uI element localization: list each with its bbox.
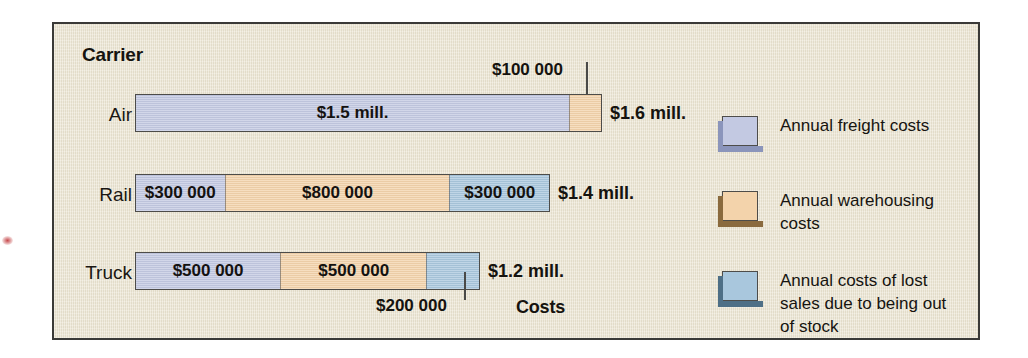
stacked-bar-truck: $500 000 $500 000 bbox=[135, 252, 480, 290]
bar-segment-truck-warehousing: $500 000 bbox=[280, 253, 426, 289]
bar-total-label-air: $1.6 mill. bbox=[610, 94, 686, 132]
legend-swatch-lostsales-icon bbox=[722, 271, 758, 301]
bar-row-air: Air $1.5 mill. $1.6 mill. bbox=[54, 94, 714, 136]
legend-item-warehousing: Annual warehousing costs bbox=[722, 189, 960, 235]
bar-row-label-truck: Truck bbox=[54, 252, 132, 294]
bar-segment-rail-lostsales: $300 000 bbox=[449, 175, 549, 211]
legend-item-lostsales: Annual costs of lost sales due to being … bbox=[722, 269, 960, 338]
bar-segment-air-warehousing bbox=[569, 95, 601, 131]
legend-swatch-warehousing-icon bbox=[722, 191, 758, 221]
stacked-bar-air: $1.5 mill. bbox=[135, 94, 602, 132]
legend-swatch-freight-icon bbox=[722, 116, 758, 146]
bar-segment-air-freight: $1.5 mill. bbox=[136, 95, 569, 131]
legend-label-lostsales: Annual costs of lost sales due to being … bbox=[780, 269, 960, 338]
bar-segment-truck-lostsales bbox=[426, 253, 479, 289]
bar-segment-rail-freight: $300 000 bbox=[136, 175, 225, 211]
callout-leader-air-warehousing bbox=[586, 62, 588, 94]
callout-air-warehousing: $100 000 bbox=[492, 60, 563, 80]
category-axis-title: Carrier bbox=[82, 44, 143, 66]
bar-total-label-truck: $1.2 mill. bbox=[488, 252, 564, 290]
callout-truck-lostsales: $200 000 bbox=[376, 296, 447, 316]
bar-segment-truck-freight: $500 000 bbox=[136, 253, 280, 289]
legend-item-freight: Annual freight costs bbox=[722, 114, 929, 146]
bar-row-rail: Rail $300 000 $800 000 $300 000 $1.4 mil… bbox=[54, 174, 714, 216]
scan-artifact-red-mark bbox=[2, 236, 13, 245]
callout-leader-truck-lostsales bbox=[464, 272, 466, 300]
bar-row-truck: Truck $500 000 $500 000 $1.2 mill. bbox=[54, 252, 714, 294]
legend-label-freight: Annual freight costs bbox=[780, 114, 929, 137]
bar-segment-rail-warehousing: $800 000 bbox=[225, 175, 450, 211]
chart-plot-area: Carrier Costs Air $1.5 mill. $1.6 mill. … bbox=[54, 24, 978, 338]
legend-label-warehousing: Annual warehousing costs bbox=[780, 189, 960, 235]
bar-row-label-air: Air bbox=[54, 94, 132, 136]
bar-row-label-rail: Rail bbox=[54, 174, 132, 216]
value-axis-title: Costs bbox=[516, 297, 565, 318]
bar-total-label-rail: $1.4 mill. bbox=[558, 174, 634, 212]
chart-figure: Carrier Costs Air $1.5 mill. $1.6 mill. … bbox=[52, 22, 980, 340]
stacked-bar-rail: $300 000 $800 000 $300 000 bbox=[135, 174, 550, 212]
scanned-page: Carrier Costs Air $1.5 mill. $1.6 mill. … bbox=[0, 0, 1028, 358]
